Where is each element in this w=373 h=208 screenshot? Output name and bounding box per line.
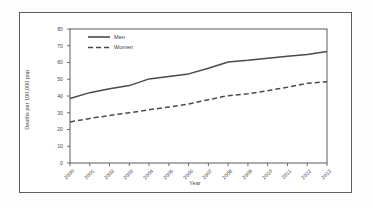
screenshot-canvas: Deaths per 100,000 pop. Year 01020304050…: [0, 0, 373, 208]
y-tick-label: 30: [47, 110, 63, 116]
y-tick-label: 60: [47, 59, 63, 65]
y-tick-label: 20: [47, 126, 63, 132]
data-series-group: [70, 52, 327, 122]
plot-area-border: [70, 29, 327, 163]
y-tick-label: 70: [47, 43, 63, 49]
series-line-women: [70, 82, 327, 122]
legend-label-men: Men: [114, 34, 125, 40]
legend-swatches: [88, 37, 110, 48]
series-line-men: [70, 52, 327, 99]
y-tick-label: 50: [47, 76, 63, 82]
y-tick-label: 0: [47, 160, 63, 166]
y-tick-label: 10: [47, 143, 63, 149]
legend-label-women: Women: [114, 44, 133, 50]
y-tick-label: 40: [47, 93, 63, 99]
y-axis-title: Deaths per 100,000 pop.: [24, 54, 30, 144]
y-tick-label: 80: [47, 26, 63, 32]
